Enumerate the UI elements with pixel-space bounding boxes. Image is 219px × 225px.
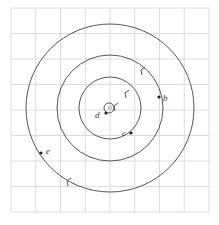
point-e bbox=[39, 151, 42, 154]
arrow-inner-icon bbox=[125, 90, 129, 98]
point-label-c: c bbox=[122, 128, 126, 138]
point-label-b: b bbox=[163, 93, 168, 103]
center-dot bbox=[108, 106, 113, 111]
point-label-d: d bbox=[95, 110, 100, 120]
orbit-diagram: bcde bbox=[0, 0, 219, 225]
point-b bbox=[157, 95, 160, 98]
point-c bbox=[129, 131, 132, 134]
point-d bbox=[104, 111, 107, 114]
point-label-e: e bbox=[46, 146, 50, 156]
labeled-points: bcde bbox=[39, 93, 168, 156]
